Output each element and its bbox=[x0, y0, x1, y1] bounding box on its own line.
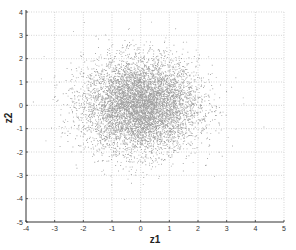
y-tick-label: -1 bbox=[17, 125, 23, 132]
x-tick-label: 1 bbox=[167, 225, 171, 232]
y-tick-label: 2 bbox=[19, 55, 23, 62]
y-tick-label: 1 bbox=[19, 79, 23, 86]
y-tick-labels: -5-4-3-2-101234 bbox=[17, 9, 23, 226]
y-tick-label: 0 bbox=[19, 102, 23, 109]
grid-lines bbox=[26, 12, 284, 222]
y-tick-label: -2 bbox=[17, 149, 23, 156]
scatter-chart: -4-3-2-1012345 -5-4-3-2-101234 z1 z2 bbox=[0, 0, 296, 250]
series-points bbox=[33, 22, 265, 200]
x-tick-label: -2 bbox=[80, 225, 86, 232]
scatter-points bbox=[33, 22, 265, 200]
x-tick-label: 5 bbox=[282, 225, 286, 232]
x-tick-label: 3 bbox=[225, 225, 229, 232]
x-tick-label: -1 bbox=[109, 225, 115, 232]
x-tick-label: -3 bbox=[52, 225, 58, 232]
y-tick-label: -3 bbox=[17, 172, 23, 179]
x-tick-labels: -4-3-2-1012345 bbox=[23, 225, 286, 232]
x-tick-label: 4 bbox=[253, 225, 257, 232]
y-tick-label: -4 bbox=[17, 195, 23, 202]
y-axis-label: z2 bbox=[3, 112, 14, 123]
y-tick-label: 4 bbox=[19, 9, 23, 16]
x-tick-label: -4 bbox=[23, 225, 29, 232]
x-tick-label: 0 bbox=[139, 225, 143, 232]
x-axis-label: z1 bbox=[150, 234, 161, 245]
y-tick-label: 3 bbox=[19, 32, 23, 39]
y-tick-label: -5 bbox=[17, 219, 23, 226]
x-tick-label: 2 bbox=[196, 225, 200, 232]
